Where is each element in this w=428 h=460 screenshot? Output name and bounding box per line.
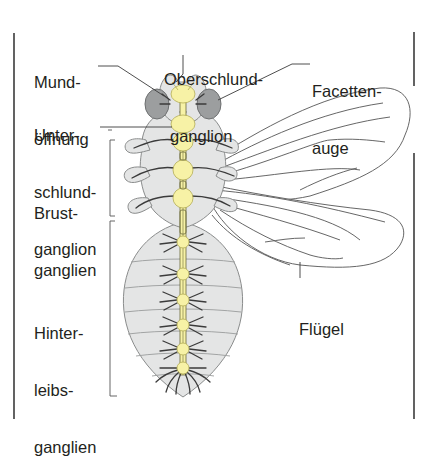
abdominal-ganglion-2 (177, 268, 189, 280)
abdominal-ganglion-4 (177, 319, 189, 331)
label-oberschlundganglion: Oberschlund- ganglion (164, 32, 263, 184)
label-line: ganglion (164, 127, 263, 146)
label-line: Oberschlund- (164, 70, 263, 89)
abdominal-ganglion-1 (177, 236, 189, 248)
label-line: Facetten- (312, 82, 382, 101)
label-fluegel: Flügel (299, 282, 344, 377)
label-line: leibs- (34, 381, 96, 400)
bracket-hinterleibsganglien (110, 221, 117, 396)
label-line: auge (312, 139, 382, 158)
abdominal-ganglion-3 (177, 294, 189, 306)
abdominal-ganglion-5 (177, 343, 189, 355)
label-line: ganglien (34, 261, 96, 280)
label-line: Flügel (299, 320, 344, 339)
label-hinterleibsganglien: Hinter- leibs- ganglien (34, 286, 96, 460)
thoracic-ganglion-3 (173, 188, 193, 208)
label-facettenauge: Facetten- auge (312, 44, 382, 196)
abdominal-ganglion-6 (177, 362, 189, 374)
label-line: Brust- (34, 204, 96, 223)
brackets (108, 130, 117, 396)
label-line: Hinter- (34, 324, 96, 343)
label-line: Unter- (34, 126, 96, 145)
bracket-brustganglien (110, 140, 115, 216)
label-line: ganglien (34, 438, 96, 457)
